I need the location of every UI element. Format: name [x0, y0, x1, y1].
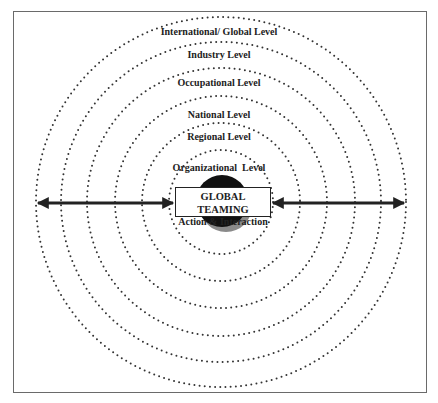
level-label-national: National Level: [0, 109, 438, 120]
global-teaming-box: GLOBAL TEAMING Action & Interaction: [175, 187, 271, 217]
level-label-organizational: Organizational Level: [0, 162, 438, 173]
center-subtitle: Action & Interaction: [176, 216, 270, 228]
center-title: GLOBAL TEAMING: [176, 190, 270, 216]
level-label-international-global: International/ Global Level: [0, 26, 438, 37]
level-label-regional: Regional Level: [0, 131, 438, 142]
level-label-occupational: Occupational Level: [0, 77, 438, 88]
level-label-industry: Industry Level: [0, 49, 438, 60]
